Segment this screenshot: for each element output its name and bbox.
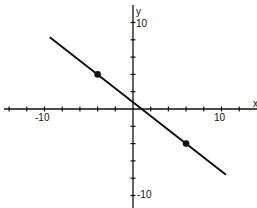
coordinate-plane (0, 0, 257, 208)
plot-line (50, 37, 226, 175)
x-tick-label-neg10: -10 (35, 113, 49, 123)
y-axis-label: y (136, 7, 141, 17)
y-tick-label-neg10: -10 (137, 190, 151, 200)
axes (4, 5, 257, 208)
x-axis-label: x (253, 99, 257, 109)
y-tick-label-pos10: 10 (136, 19, 147, 29)
x-tick-label-pos10: 10 (214, 113, 225, 123)
